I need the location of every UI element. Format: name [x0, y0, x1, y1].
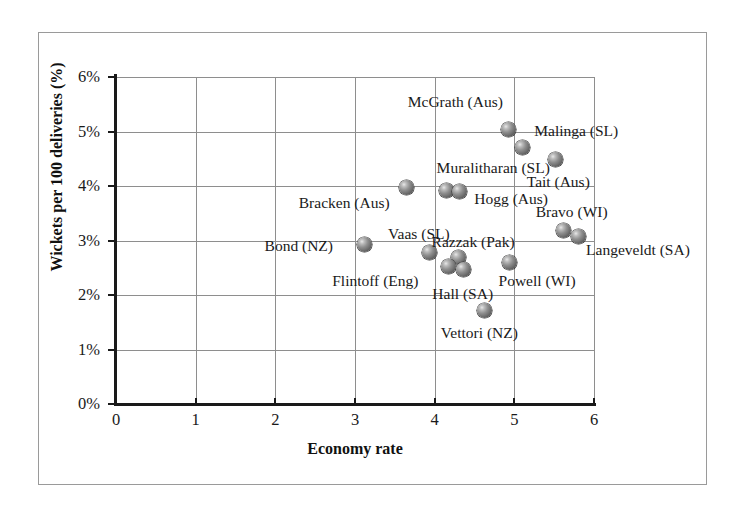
data-point-label: Flintoff (Eng) — [332, 273, 418, 289]
data-point-marker — [452, 184, 467, 199]
plot-area — [116, 77, 594, 404]
data-point-label: Tait (Aus) — [527, 174, 590, 190]
y-axis-tick-label: 6% — [56, 69, 100, 86]
gridline-vertical — [355, 77, 356, 404]
data-point-label: Vettori (NZ) — [441, 325, 518, 341]
x-axis-tick-label: 6 — [579, 412, 609, 429]
x-axis-tick-label: 1 — [181, 412, 211, 429]
data-point-marker — [399, 180, 414, 195]
y-axis-tick-label: 0% — [56, 396, 100, 413]
y-axis-tick — [108, 76, 116, 78]
data-point-marker — [456, 262, 471, 277]
x-axis-tick-label: 5 — [499, 412, 529, 429]
data-point-label: Malinga (SL) — [534, 123, 618, 139]
y-axis-title: Wickets per 100 deliveries (%) — [48, 2, 66, 332]
x-axis-title: Economy rate — [116, 440, 594, 458]
y-axis-tick-label: 1% — [56, 342, 100, 359]
data-point-marker — [502, 255, 517, 270]
data-point-label: Bravo (WI) — [536, 204, 608, 220]
data-point-label: Muralitharan (SL) — [437, 160, 550, 176]
data-point-label: Langeveldt (SA) — [586, 242, 690, 258]
x-axis-tick — [195, 398, 197, 406]
data-point-label: Bond (NZ) — [265, 238, 333, 254]
data-point-label: Hall (SA) — [432, 286, 493, 302]
y-axis-tick — [108, 131, 116, 133]
data-point-label: Powell (WI) — [499, 273, 576, 289]
y-axis-tick — [108, 185, 116, 187]
x-axis-tick-label: 4 — [420, 412, 450, 429]
x-axis-tick-label: 3 — [340, 412, 370, 429]
y-axis-tick-label: 5% — [56, 124, 100, 141]
figure-container: Wickets per 100 deliveries (%) Economy r… — [0, 0, 743, 512]
x-axis-tick — [274, 398, 276, 406]
data-point-label: Razzak (Pak) — [432, 234, 515, 250]
data-point-label: McGrath (Aus) — [408, 94, 503, 110]
data-point-marker — [441, 259, 456, 274]
y-axis-tick — [108, 294, 116, 296]
x-axis-tick — [354, 398, 356, 406]
x-axis-tick — [115, 398, 117, 406]
y-axis-tick-label: 2% — [56, 287, 100, 304]
x-axis-tick-label: 0 — [101, 412, 131, 429]
data-point-label: Bracken (Aus) — [299, 195, 390, 211]
y-axis-tick-label: 3% — [56, 233, 100, 250]
y-axis-tick — [108, 240, 116, 242]
x-axis-tick — [434, 398, 436, 406]
x-axis-tick — [513, 398, 515, 406]
gridline-vertical — [196, 77, 197, 404]
x-axis-tick — [593, 398, 595, 406]
y-axis-tick — [108, 349, 116, 351]
data-point-marker — [571, 229, 586, 244]
x-axis-tick-label: 2 — [260, 412, 290, 429]
y-axis-tick-label: 4% — [56, 178, 100, 195]
data-point-marker — [357, 237, 372, 252]
